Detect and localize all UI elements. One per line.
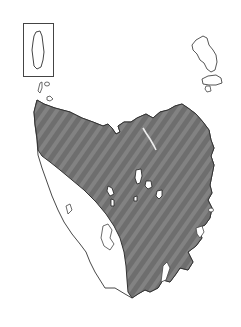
king-island [32, 31, 44, 69]
nw-islands [38, 82, 53, 101]
flinders-island [192, 36, 217, 72]
cape-barren-island [202, 75, 222, 85]
king-island-inset [24, 24, 54, 77]
flinders-island-group [192, 36, 222, 92]
tasmania-map [0, 0, 241, 327]
